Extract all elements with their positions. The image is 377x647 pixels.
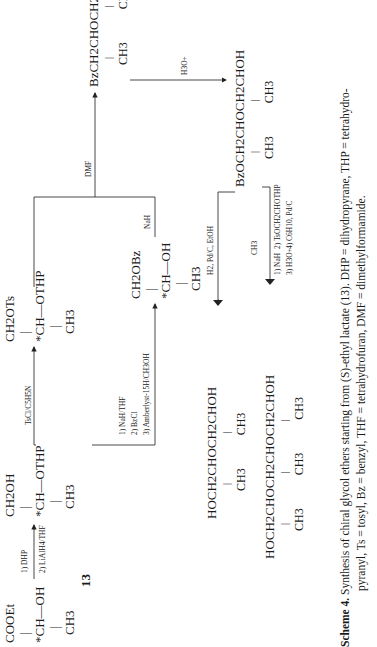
tosylate-top: CH2OTs — [2, 270, 17, 342]
tosylate-bottom: CH3 — [62, 270, 77, 334]
reagent-benzylation-3: 3) Amberlyst-15H/CH3OH — [142, 353, 151, 435]
alcohol-thp-mid: *CH—OTHP — [32, 445, 47, 517]
reagent-benzylation-2: 2) BzCl — [130, 411, 139, 435]
reagent-trimer-sub: CH3 — [250, 241, 259, 255]
compound-13-mid: *CH—OH — [32, 587, 47, 643]
reagent-trimer-2: 2) TsOCH2CHOTHP — [273, 184, 282, 249]
reagent-trimer-3: 3) H3O+ — [285, 248, 294, 275]
reagent-trimer-1: 1) NaH — [273, 253, 282, 275]
bz-diol-ether-formula: BzOCH2CHOCH2CHOH — [232, 50, 247, 187]
trimer-sub-1: CH3 — [292, 508, 306, 531]
bz-diol-ether-sub-1: CH3 — [262, 136, 276, 159]
compound-bz-thp-ether: BzCH2CHOCH2CHOTHP | | CH3 CH3 — [86, 0, 131, 87]
benzyl-alcohol-bottom: CH3 — [188, 243, 203, 291]
tosylate-mid: *CH—OTHP — [32, 270, 47, 342]
trimer-sub-3: CH3 — [292, 397, 306, 420]
compound-benzyl-alcohol: CH2OBz | *CH—OH | CH3 — [128, 243, 203, 299]
bz-thp-ether-sub-2: CH3 — [116, 0, 130, 9]
bz-thp-ether-sub-1: CH3 — [116, 42, 130, 65]
reagent-hydrolysis: H3O+ — [180, 56, 189, 75]
reagent-hydrogenolysis: H2, Pd/C, EtOH — [206, 226, 215, 275]
bz-thp-ether-formula: BzCH2CHOCH2CHOTHP — [86, 0, 101, 87]
compound-tosylate: CH2OTs | *CH—OTHP | CH3 — [2, 270, 77, 342]
reagent-trimer-4: 4) C6H10, Pd/C — [285, 200, 294, 249]
benzyl-alcohol-top: CH2OBz — [128, 243, 143, 299]
reagent-benzylation-1: 1) NaH/THF — [118, 396, 127, 435]
reagent-nah: NaH — [143, 215, 152, 229]
compound-bz-diol-ether: BzOCH2CHOCH2CHOH | | CH3 CH3 — [232, 50, 277, 187]
reagent-step1-a: 1) DHP — [20, 550, 29, 573]
caption-line-2: pyranyl, Ts = tosyl, Bz = benzyl, THF = … — [354, 195, 369, 591]
dimer-formula: HOCH2CHOCH2CHOH — [204, 387, 219, 519]
trimer-sub-2: CH3 — [292, 453, 306, 476]
compound-dimer: HOCH2CHOCH2CHOH | | CH3 CH3 — [204, 387, 249, 519]
compound-13-top: COOEt — [2, 587, 17, 643]
compound-trimer: HOCH2CHOCH2CHOCH2CHOH | | | CH3 CH3 CH3 — [262, 375, 307, 559]
benzyl-alcohol-mid: *CH—OH — [158, 243, 173, 299]
trimer-formula: HOCH2CHOCH2CHOCH2CHOH — [262, 375, 277, 559]
reagent-step1-b: 2) LiAlH4/THF — [38, 525, 47, 573]
figure-caption: Scheme 4. Synthesis of chiral glycol eth… — [338, 88, 353, 647]
reagent-dmf: DMF — [84, 161, 93, 177]
caption-line-1: Synthesis of chiral glycol ethers starti… — [339, 88, 351, 595]
compound-13-bottom: CH3 — [62, 587, 77, 635]
alcohol-thp-bottom: CH3 — [62, 445, 77, 509]
caption-label: Scheme 4. — [339, 598, 351, 647]
dimer-sub-2: CH3 — [234, 413, 248, 436]
compound-13: COOEt | *CH—OH | CH3 — [2, 587, 77, 643]
scheme-page: COOEt | *CH—OH | CH3 13 1) DHP 2) LiAlH4… — [0, 0, 377, 647]
compound-alcohol-thp: CH2OH | *CH—OTHP | CH3 — [2, 445, 77, 517]
alcohol-thp-top: CH2OH — [2, 445, 17, 517]
compound-label-13: 13 — [78, 574, 93, 587]
dimer-sub-1: CH3 — [234, 468, 248, 491]
reagent-tosylation: TsCl/C5H5N — [24, 386, 33, 425]
bz-diol-ether-sub-2: CH3 — [262, 81, 276, 104]
